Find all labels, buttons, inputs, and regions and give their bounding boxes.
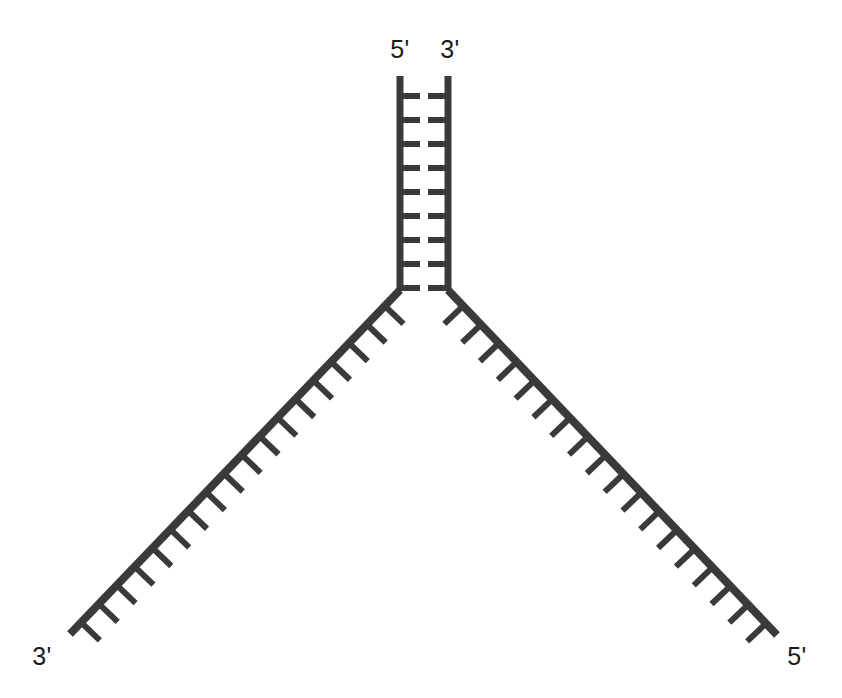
label-stem-left-5prime: 5' [390,35,410,63]
label-left-arm-end-3prime: 3' [32,642,52,670]
replication-fork-figure: 5' 3' 3' 5' [0,0,842,698]
label-stem-right-3prime: 3' [440,35,460,63]
fork-diagram-svg: 5' 3' 3' 5' [0,0,842,698]
label-right-arm-end-5prime: 5' [787,642,807,670]
